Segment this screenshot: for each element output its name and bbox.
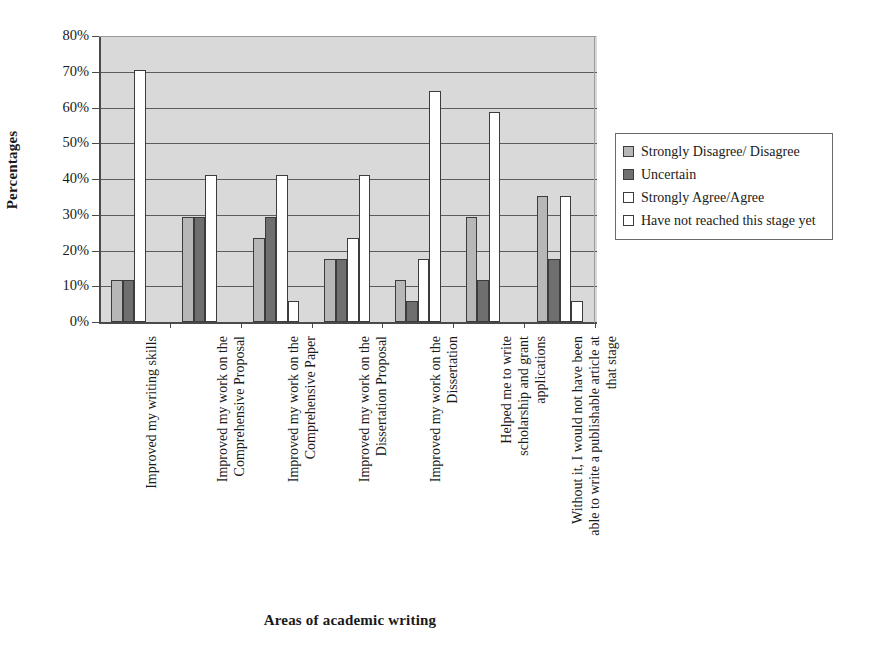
x-axis-category-label-text: Improved my work on the Comprehensive Pr… <box>214 336 248 486</box>
x-axis-tick-mark <box>241 322 242 328</box>
y-axis-title: Percentages <box>4 95 44 245</box>
gridline <box>101 143 597 144</box>
bar <box>336 259 348 322</box>
y-axis-tick-label: 70% <box>33 64 89 79</box>
bar <box>395 280 407 322</box>
bar <box>265 217 277 322</box>
x-axis-category-label-text: Improved my work on the Comprehensive Pa… <box>285 336 319 486</box>
bar <box>182 217 194 322</box>
bar <box>288 301 300 322</box>
legend-item-label: Strongly Disagree/ Disagree <box>641 145 800 159</box>
x-axis-category-label: Improved my writing skills <box>143 336 160 596</box>
y-axis-tick-label: 80% <box>33 28 89 43</box>
x-axis-category-label-text: Helped me to write scholarship and grant… <box>498 336 549 486</box>
bar <box>324 259 336 322</box>
x-axis-title: Areas of academic writing <box>100 612 600 629</box>
bar <box>466 217 478 322</box>
bar <box>560 196 572 322</box>
bar <box>429 91 441 322</box>
legend-item: Strongly Disagree/ Disagree <box>623 140 825 163</box>
bar <box>359 175 371 322</box>
y-axis-tick-label: 30% <box>33 207 89 222</box>
bar <box>194 217 206 322</box>
bar-chart-figure: Percentages 0%10%20%30%40%50%60%70%80% I… <box>0 0 869 658</box>
x-axis-category-label: Improved my work on the Dissertation Pro… <box>356 336 390 486</box>
legend-swatch-icon <box>623 146 634 157</box>
y-axis-tick-label: 60% <box>33 100 89 115</box>
x-axis-category-label-text: Improved my work on the Dissertation Pro… <box>356 336 390 486</box>
bar <box>477 280 489 322</box>
bar <box>347 238 359 322</box>
x-axis-category-label-text: Without it, I would not have been able t… <box>569 336 620 536</box>
legend-item-label: Strongly Agree/Agree <box>641 191 764 205</box>
x-axis-category-label: Improved my work on the Comprehensive Pr… <box>214 336 248 486</box>
y-axis-tick-label: 0% <box>33 314 89 329</box>
x-axis-tick-mark <box>453 322 454 328</box>
gridline <box>101 179 597 180</box>
x-axis-tick-mark <box>595 322 596 328</box>
chart-legend: Strongly Disagree/ DisagreeUncertainStro… <box>615 133 833 240</box>
x-axis-category-label: Improved my work on the Dissertation <box>427 336 461 536</box>
y-axis-tick-label: 50% <box>33 135 89 150</box>
x-axis-tick-mark <box>170 322 171 328</box>
x-axis-category-label: Improved my work on the Comprehensive Pa… <box>285 336 319 486</box>
gridline <box>101 215 597 216</box>
x-axis-category-label: Helped me to write scholarship and grant… <box>498 336 549 486</box>
x-axis-category-label-text: Improved my writing skills <box>143 336 160 596</box>
bar <box>537 196 549 322</box>
bar <box>489 112 501 322</box>
bar <box>418 259 430 322</box>
bar <box>134 70 146 322</box>
y-axis-tick-label: 40% <box>33 171 89 186</box>
bar <box>406 301 418 322</box>
plot-frame-right-edge <box>594 36 595 323</box>
legend-item: Uncertain <box>623 163 825 186</box>
x-axis-category-label: Without it, I would not have been able t… <box>569 336 620 536</box>
legend-swatch-icon <box>623 215 634 226</box>
bar <box>111 280 123 322</box>
y-axis-tick-label: 20% <box>33 243 89 258</box>
x-axis-tick-mark <box>382 322 383 328</box>
bar <box>253 238 265 322</box>
bar <box>571 301 583 322</box>
bar <box>276 175 288 322</box>
x-axis-tick-mark <box>312 322 313 328</box>
legend-swatch-icon <box>623 169 634 180</box>
plot-frame-top-edge <box>99 36 596 37</box>
gridline <box>101 72 597 73</box>
x-axis-tick-mark <box>524 322 525 328</box>
legend-item: Strongly Agree/Agree <box>623 186 825 209</box>
legend-item: Have not reached this stage yet <box>623 209 825 232</box>
x-axis-category-label-text: Improved my work on the Dissertation <box>427 336 461 536</box>
bar <box>548 259 560 322</box>
bar <box>205 175 217 322</box>
gridline <box>101 108 597 109</box>
legend-item-label: Have not reached this stage yet <box>641 214 816 228</box>
legend-item-label: Uncertain <box>641 168 696 182</box>
bar <box>123 280 135 322</box>
y-axis-tick-label: 10% <box>33 278 89 293</box>
legend-swatch-icon <box>623 192 634 203</box>
